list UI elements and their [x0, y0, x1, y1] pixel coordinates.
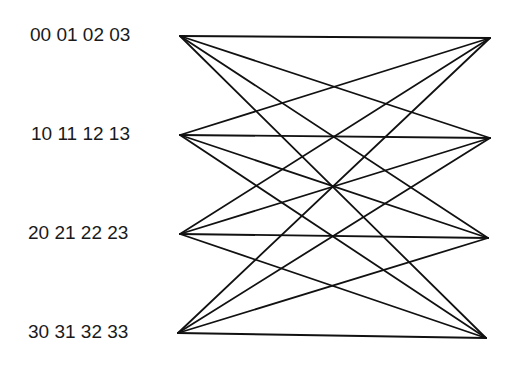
edge-L2-R1	[180, 138, 490, 234]
edge-L3-R1	[178, 138, 490, 333]
edge-L3-R0	[178, 38, 490, 333]
edge-L0-R0	[180, 36, 490, 38]
edge-lines	[0, 0, 517, 368]
edge-L3-R2	[178, 238, 488, 333]
edge-L3-R3	[178, 333, 486, 338]
edge-L1-R0	[180, 38, 490, 135]
